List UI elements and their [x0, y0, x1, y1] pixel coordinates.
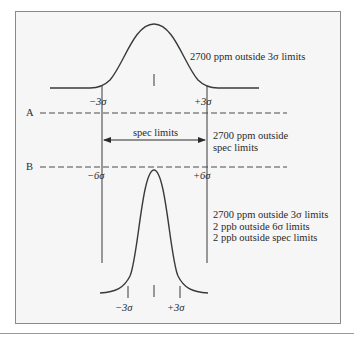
plus-6sigma-label: +6σ: [193, 170, 211, 182]
spec-note-line2: spec limits: [213, 142, 258, 154]
level-a-label: A: [26, 107, 34, 119]
bottom-bell-curve: [100, 170, 208, 293]
spec-limits-label: spec limits: [133, 127, 178, 139]
minus-6sigma-label: −6σ: [87, 170, 105, 182]
top-plus-3sigma-label: +3σ: [194, 96, 212, 108]
bottom-note-3: 2 ppb outside spec limits: [213, 232, 317, 244]
bottom-minus-3sigma-label: −3σ: [115, 302, 133, 314]
top-curve-note: 2700 ppm outside 3σ limits: [190, 51, 305, 63]
bottom-note-1: 2700 ppm outside 3σ limits: [213, 209, 328, 221]
bottom-plus-3sigma-label: +3σ: [167, 302, 185, 314]
spec-note-line1: 2700 ppm outside: [213, 130, 288, 142]
level-b-label: B: [26, 161, 33, 173]
top-minus-3sigma-label: −3σ: [89, 96, 107, 108]
